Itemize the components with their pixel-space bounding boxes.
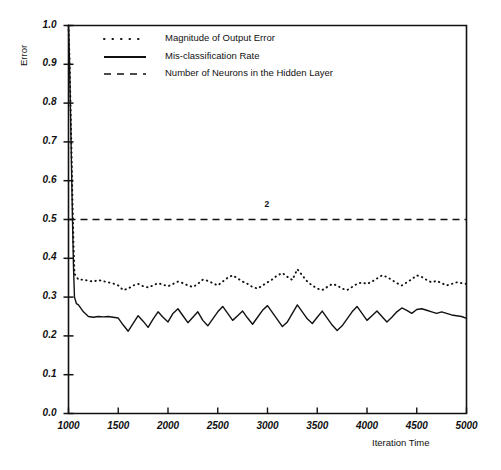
plot-area (0, 0, 501, 470)
series-line-misclassification (69, 26, 467, 332)
series-line-output-error (69, 26, 467, 291)
chart-figure: Error Iteration Time 0.00.10.20.30.40.50… (0, 0, 501, 470)
x-tick-marks (69, 408, 467, 414)
